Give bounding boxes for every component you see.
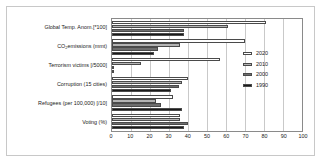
x-tick-label: 50 <box>204 134 210 139</box>
bar <box>112 52 154 55</box>
bar-row <box>112 39 302 42</box>
x-tick-label: 0 <box>110 134 113 139</box>
bar-row <box>112 95 302 98</box>
bar-row <box>112 43 302 46</box>
legend-label: 2020 <box>256 51 268 56</box>
bar-row <box>112 99 302 102</box>
bar <box>112 81 182 84</box>
legend-swatch <box>243 84 252 87</box>
gridline <box>302 19 303 131</box>
bar-group <box>112 94 302 113</box>
x-tick-label: 100 <box>299 134 308 139</box>
bar <box>112 21 266 24</box>
bar-row <box>112 21 302 24</box>
plot-area <box>111 18 303 132</box>
bar-row <box>112 66 302 69</box>
legend-item[interactable]: 2000 <box>243 72 268 77</box>
bar-group <box>112 56 302 75</box>
x-tick-label: 30 <box>166 134 172 139</box>
bar-group <box>112 75 302 94</box>
bar <box>112 39 245 42</box>
x-tick-label: 70 <box>242 134 248 139</box>
bar-group <box>112 19 302 38</box>
legend-swatch <box>243 63 252 66</box>
bar <box>112 103 161 106</box>
bar <box>112 126 184 129</box>
bar-row <box>112 25 302 28</box>
bar-group <box>112 38 302 57</box>
bar <box>112 33 184 36</box>
bar-row <box>112 70 302 73</box>
bar-row <box>112 126 302 129</box>
legend-label: 2010 <box>256 62 268 67</box>
bar-row <box>112 118 302 121</box>
legend-swatch <box>243 52 252 55</box>
bar-row <box>112 52 302 55</box>
bar <box>112 58 220 61</box>
category-label: Terrorism victims [/5000] <box>15 56 109 75</box>
bar <box>112 85 179 88</box>
bar-row <box>112 33 302 36</box>
x-axis-tick-labels: 0102030405060708090100 <box>111 134 303 144</box>
bar-row <box>112 77 302 80</box>
chart-container: Global Temp. Anom.[*100]CO2 emissions (m… <box>6 6 315 156</box>
legend-item[interactable]: 2020 <box>243 51 268 56</box>
legend-swatch <box>243 73 252 76</box>
x-tick-label: 60 <box>223 134 229 139</box>
category-label: CO2 emissions (mmt) <box>15 37 109 56</box>
x-tick-label: 80 <box>262 134 268 139</box>
bar <box>112 47 158 50</box>
bar <box>112 25 228 28</box>
bar <box>112 99 156 102</box>
category-label: Refugees (per 100,000) [/10] <box>15 94 109 113</box>
legend-label: 2000 <box>256 72 268 77</box>
legend-label: 1990 <box>256 83 268 88</box>
x-tick-label: 40 <box>185 134 191 139</box>
bar-row <box>112 62 302 65</box>
bar <box>112 114 180 117</box>
x-tick-label: 90 <box>281 134 287 139</box>
bar-row <box>112 85 302 88</box>
legend-item[interactable]: 1990 <box>243 83 268 88</box>
bar <box>112 108 182 111</box>
bar-row <box>112 114 302 117</box>
chart-legend: 2020201020001990 <box>243 51 268 88</box>
bar <box>112 43 180 46</box>
bar-row <box>112 108 302 111</box>
bar-row <box>112 122 302 125</box>
bar <box>112 62 141 65</box>
bar-row <box>112 89 302 92</box>
bar-groups <box>112 19 302 131</box>
category-label: Global Temp. Anom.[*100] <box>15 18 109 37</box>
bar-row <box>112 81 302 84</box>
bar <box>112 118 180 121</box>
bar <box>112 122 188 125</box>
bar-row <box>112 47 302 50</box>
x-tick-label: 10 <box>127 134 133 139</box>
bar-row <box>112 58 302 61</box>
bar <box>112 29 184 32</box>
legend-item[interactable]: 2010 <box>243 62 268 67</box>
bar-row <box>112 29 302 32</box>
bar <box>112 89 171 92</box>
bar <box>112 66 114 69</box>
bar <box>112 77 188 80</box>
bar-row <box>112 103 302 106</box>
bar <box>112 95 173 98</box>
category-label: Corruption (15 cities) <box>15 75 109 94</box>
bar <box>112 70 114 73</box>
category-axis-labels: Global Temp. Anom.[*100]CO2 emissions (m… <box>15 18 109 132</box>
bar-group <box>112 112 302 131</box>
category-label: Voting (%) <box>15 113 109 132</box>
x-tick-label: 20 <box>146 134 152 139</box>
